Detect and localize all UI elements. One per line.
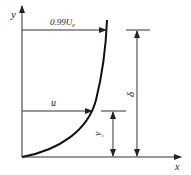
local-velocity-label: u (51, 97, 56, 108)
diagram-svg: y x 0.99Ue u y δ (0, 0, 191, 175)
boundary-layer-diagram: y x 0.99Ue u y δ (0, 0, 191, 175)
edge-velocity-label: 0.99Ue (50, 17, 75, 28)
x-axis-label: x (174, 161, 180, 172)
y-axis-label: y (10, 8, 16, 20)
height-label: y (92, 131, 103, 137)
thickness-label: δ (124, 91, 136, 97)
